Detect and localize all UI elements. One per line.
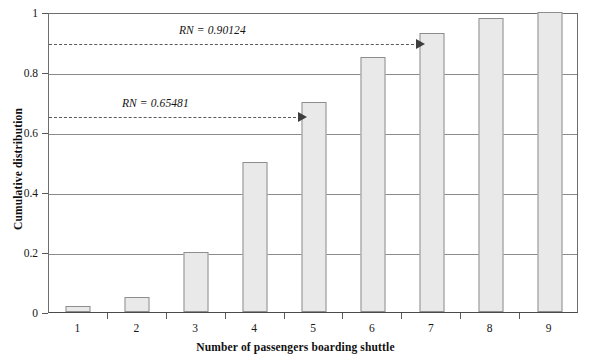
annotation-arrowhead-rn-upper [416,39,425,49]
ytick-label-0: 0 [32,307,38,319]
ytick-mark-0 [42,313,48,314]
xtick-mark-b4 [284,313,285,319]
ytick-mark-0.8 [42,73,48,74]
xtick-mark-b8 [519,313,520,319]
xtick-mark-b5 [342,313,343,319]
bar-8 [478,18,503,312]
xtick-label-7: 7 [428,322,434,334]
annotation-line-rn-upper [49,44,419,45]
xtick-mark-b2 [166,313,167,319]
bar-cell-7 [402,14,461,312]
bar-4 [243,162,268,312]
xtick-label-9: 9 [546,322,552,334]
bar-cell-8 [461,14,520,312]
plot-area: RN = 0.90124 RN = 0.65481 [48,13,578,313]
xtick-label-3: 3 [192,322,198,334]
xtick-label-4: 4 [251,322,257,334]
xtick-mark-b6 [401,313,402,319]
bar-5 [302,102,327,312]
cumulative-distribution-chart: RN = 0.90124 RN = 0.65481 1 0.8 0.6 0.4 … [0,0,591,362]
bar-cell-1 [49,14,108,312]
annotation-arrowhead-rn-lower [298,112,307,122]
y-axis-title: Cumulative distribution [12,74,24,264]
bar-9 [537,12,562,312]
ytick-label-0.6: 0.6 [24,127,38,139]
bars-layer [49,14,577,312]
bar-cell-5 [285,14,344,312]
bar-2 [125,297,150,312]
bar-cell-2 [108,14,167,312]
bar-3 [184,252,209,312]
xtick-mark-b1 [107,313,108,319]
annotation-label-rn-upper: RN = 0.90124 [179,24,246,36]
xtick-mark-b3 [225,313,226,319]
xtick-label-2: 2 [133,322,139,334]
xtick-label-1: 1 [75,322,81,334]
bar-1 [66,306,91,312]
ytick-mark-0.4 [42,193,48,194]
ytick-label-0.8: 0.8 [24,67,38,79]
annotation-rn-upper-text: RN = 0.90124 [179,24,246,36]
xtick-mark-b7 [460,313,461,319]
xtick-label-5: 5 [310,322,316,334]
xtick-label-8: 8 [487,322,493,334]
bar-cell-9 [520,14,579,312]
annotation-rn-lower-text: RN = 0.65481 [122,97,189,109]
ytick-mark-0.6 [42,133,48,134]
ytick-label-0.4: 0.4 [24,187,38,199]
ytick-label-0.2: 0.2 [24,247,38,259]
ytick-mark-1 [42,13,48,14]
xtick-label-6: 6 [369,322,375,334]
annotation-line-rn-lower [49,117,301,118]
bar-6 [360,57,385,312]
bar-cell-6 [343,14,402,312]
x-axis-title: Number of passengers boarding shuttle [0,341,591,353]
bar-cell-3 [167,14,226,312]
bar-7 [419,33,444,312]
bar-cell-4 [226,14,285,312]
ytick-label-1: 1 [32,7,38,19]
ytick-mark-0.2 [42,253,48,254]
annotation-label-rn-lower: RN = 0.65481 [122,97,189,109]
